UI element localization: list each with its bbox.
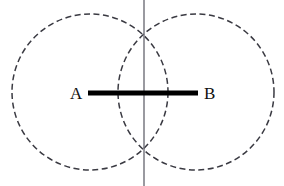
geometry-figure: A B xyxy=(0,0,284,186)
label-point-b: B xyxy=(204,84,215,103)
figure-canvas: A B xyxy=(0,0,284,186)
label-point-a: A xyxy=(70,84,83,103)
